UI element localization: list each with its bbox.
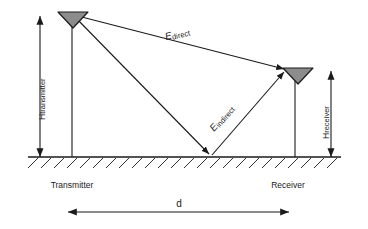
svg-text:d: d — [176, 198, 182, 209]
h-receiver-label: Hreceiver — [321, 106, 331, 139]
ground-hatching — [28, 158, 337, 168]
svg-text:Hreceiver: Hreceiver — [321, 106, 331, 139]
propagation-diagram: Htransmitter Hreceiver Edirect Eindirect… — [0, 0, 368, 229]
direct-ray — [74, 15, 284, 69]
diagram-canvas: Htransmitter Hreceiver Edirect Eindirect… — [0, 0, 368, 229]
direct-ray-label: Edirect — [164, 25, 192, 44]
receiver-antenna-icon — [283, 68, 313, 84]
receiver-label: Receiver — [271, 180, 305, 190]
indirect-ray-subscript: indirect — [214, 104, 237, 129]
svg-text:Htransmitter: Htransmitter — [37, 78, 47, 120]
separation-label: d — [176, 198, 182, 209]
h-transmitter-subscript: transmitter — [38, 78, 47, 114]
h-receiver-subscript: receiver — [322, 106, 331, 133]
indirect-ray-label: Eindirect — [207, 102, 237, 134]
svg-text:Eindirect: Eindirect — [207, 102, 237, 134]
transmitter-label: Transmitter — [51, 180, 94, 190]
svg-text:Transmitter: Transmitter — [51, 180, 94, 190]
svg-text:Edirect: Edirect — [164, 25, 192, 44]
h-transmitter-label: Htransmitter — [37, 78, 47, 120]
svg-text:Receiver: Receiver — [271, 180, 305, 190]
direct-ray-subscript: direct — [171, 28, 192, 42]
